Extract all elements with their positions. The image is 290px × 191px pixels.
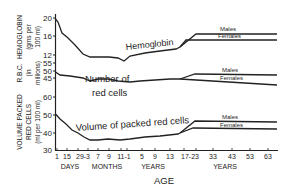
y-tick-labels: 20 16 12 55 50 45 60 50 40 30 — [43, 14, 52, 155]
hb-ylabel-1: HEMOGLOBIN — [16, 15, 23, 59]
x-tick-53: 53 — [246, 153, 254, 160]
rbc-tick-45: 45 — [43, 74, 52, 83]
x-tick-29-3: 29-3 — [76, 153, 90, 160]
x-tick-33: 33 — [209, 153, 217, 160]
x-group-years-2: YEARS — [213, 163, 237, 170]
rbc-ylabel-2: (in — [25, 69, 33, 77]
x-group-months: MONTHS — [92, 163, 123, 170]
hb-males-label: Males — [220, 26, 236, 32]
x-tick-43: 43 — [228, 153, 236, 160]
vol-males-label: Males — [222, 114, 238, 120]
hb-tick-16: 16 — [43, 32, 52, 41]
hemoglobin-females-line — [180, 40, 277, 47]
hb-tick-20: 20 — [43, 14, 52, 23]
vol-tick-30: 30 — [43, 146, 52, 155]
vol-tick-40: 40 — [43, 129, 52, 138]
vol-ylabel-1: VOLUME PACKED — [16, 94, 23, 150]
x-tick-63: 63 — [264, 153, 272, 160]
x-tick-labels: 1 15 29-3 7 9 11-1 5 9 13 17-23 33 43 53… — [55, 153, 272, 160]
vol-tick-50: 50 — [43, 111, 52, 120]
x-tick-17-23: 17-23 — [181, 153, 199, 160]
sex-labels: Males Females Males Females Males Female… — [218, 26, 243, 128]
x-tick-9: 9 — [107, 153, 111, 160]
volume-curve-label: Volume of packed red cells — [75, 114, 189, 133]
rbc-ylabel-3: millions) — [34, 61, 42, 85]
hb-ylabel-2: (gms per — [25, 23, 33, 49]
vol-females-label: Females — [220, 122, 243, 128]
x-group-labels: DAYS MONTHS YEARS YEARS — [61, 163, 237, 170]
vol-ylabel-3: (ml per 100 ml) — [34, 100, 42, 144]
rbc-males-label: Males — [222, 67, 238, 73]
hb-females-label: Females — [218, 33, 241, 39]
vol-tick-60: 60 — [43, 93, 52, 102]
vol-ylabel-2: RED CELLS — [25, 103, 32, 140]
x-group-years-1: YEARS — [141, 163, 165, 170]
rbc-ylabel-1: R.B.C. — [16, 63, 23, 82]
rbc-curve-label-2: red cells — [92, 87, 128, 98]
x-axis-title: AGE — [154, 175, 174, 186]
rbc-curve-label-1: Number of — [85, 73, 130, 84]
x-tick-15: 15 — [63, 153, 71, 160]
blood-values-by-age-chart: 20 16 12 55 50 45 60 50 40 30 HEMOGLOBIN… — [0, 0, 290, 191]
hb-ylabel-3: 100 ml) — [34, 26, 42, 48]
x-tick-5: 5 — [140, 153, 144, 160]
x-tick-1: 1 — [55, 153, 59, 160]
x-tick-11-1: 11-1 — [117, 153, 131, 160]
x-group-days: DAYS — [61, 163, 80, 170]
x-tick-13: 13 — [166, 153, 174, 160]
rbc-females-label: Females — [220, 75, 243, 81]
volume-females-line — [180, 128, 277, 133]
x-tick-9y: 9 — [153, 153, 157, 160]
x-tick-7: 7 — [96, 153, 100, 160]
y-axis-labels: HEMOGLOBIN (gms per 100 ml) R.B.C. (in m… — [16, 15, 42, 150]
